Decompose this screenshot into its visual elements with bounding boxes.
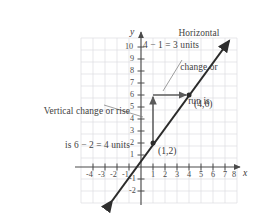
run-annotation-line2: change or	[156, 62, 242, 73]
y-tick-label-1: 1	[130, 150, 134, 159]
rise-annotation-line2: is 6 − 2 = 4 units	[2, 140, 130, 151]
x-tick-label-7: 7	[223, 170, 227, 179]
y-tick-label-3: 3	[130, 126, 134, 135]
x-tick-label-5: 5	[199, 170, 203, 179]
x-tick-label-8: 8	[232, 170, 236, 179]
y-axis-label: y	[130, 26, 134, 37]
x-axis-label: x	[243, 167, 247, 178]
run-annotation-line1: Horizontal	[156, 28, 242, 39]
y-tick-label-10: 10	[125, 42, 133, 51]
coordinate-graph-figure: Horizontal change or run is 4 − 1 = 3 un…	[0, 0, 269, 215]
x-tick-label-6: 6	[211, 170, 215, 179]
point-marker-1-2	[151, 141, 156, 146]
y-tick-label-6: 6	[130, 90, 134, 99]
x-tick-label--1: -1	[122, 170, 129, 179]
rise-annotation-line1: Vertical change or rise	[2, 106, 130, 117]
y-tick-label-8: 8	[130, 66, 134, 75]
x-tick-label--2: -2	[110, 170, 117, 179]
y-tick-label-5: 5	[130, 102, 134, 111]
x-tick-label-3: 3	[175, 170, 179, 179]
y-tick-label-9: 9	[130, 54, 134, 63]
point-label-4-6: (4,6)	[194, 98, 212, 109]
y-tick-label-7: 7	[130, 78, 134, 87]
x-tick-label--3: -3	[98, 170, 105, 179]
y-tick-label-4: 4	[130, 114, 134, 123]
x-tick-label-2: 2	[163, 170, 167, 179]
point-label-1-2: (1,2)	[158, 145, 176, 156]
x-tick-label--4: -4	[86, 170, 93, 179]
x-tick-label-4: 4	[187, 170, 191, 179]
rise-annotation: Vertical change or rise is 6 − 2 = 4 uni…	[2, 84, 130, 174]
x-tick-label-1: 1	[151, 170, 155, 179]
y-tick-label-2: 2	[130, 138, 134, 147]
run-annotation: Horizontal change or run is	[156, 6, 242, 129]
y-tick-label--2: -2	[129, 186, 136, 195]
run-annotation-equation: 4 − 1 = 3 units	[143, 40, 199, 51]
y-tick-label--1: -1	[129, 174, 136, 183]
